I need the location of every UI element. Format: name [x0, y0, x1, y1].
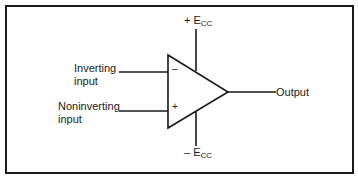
noninverting-input-label-line1: Noninverting	[58, 100, 120, 113]
inverting-input-label: Inverting input	[74, 62, 116, 88]
noninverting-pin-symbol: +	[172, 102, 178, 112]
inverting-input-label-line2: input	[74, 75, 116, 88]
negative-supply-label: – ECC	[184, 146, 212, 162]
output-label: Output	[276, 86, 309, 99]
inverting-pin-symbol: –	[172, 64, 178, 74]
negative-supply-sign: – E	[184, 146, 201, 158]
positive-supply-sign: + E	[184, 14, 201, 26]
positive-supply-label: + ECC	[184, 14, 212, 30]
noninverting-input-label-line2: input	[58, 113, 120, 126]
positive-supply-subscript: CC	[201, 19, 213, 28]
noninverting-input-label: Noninverting input	[58, 100, 120, 126]
negative-supply-subscript: CC	[201, 151, 213, 160]
inverting-input-label-line1: Inverting	[74, 62, 116, 75]
